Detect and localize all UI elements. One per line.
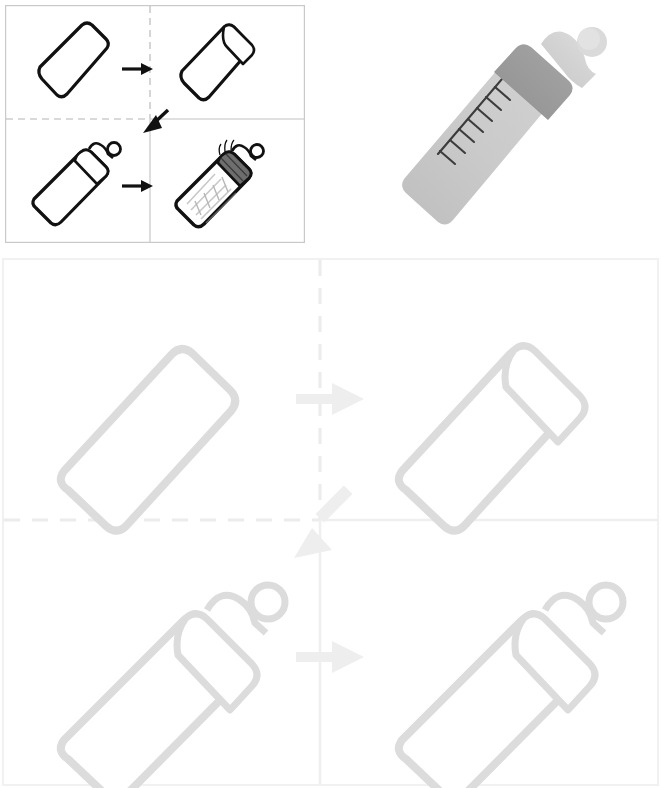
- assembly-steps-figure-small: [5, 5, 305, 243]
- gray-baby-bottle-illustration: [382, 2, 652, 242]
- assembly-steps-figure-large-faded: [2, 258, 659, 786]
- page-canvas: [0, 0, 661, 788]
